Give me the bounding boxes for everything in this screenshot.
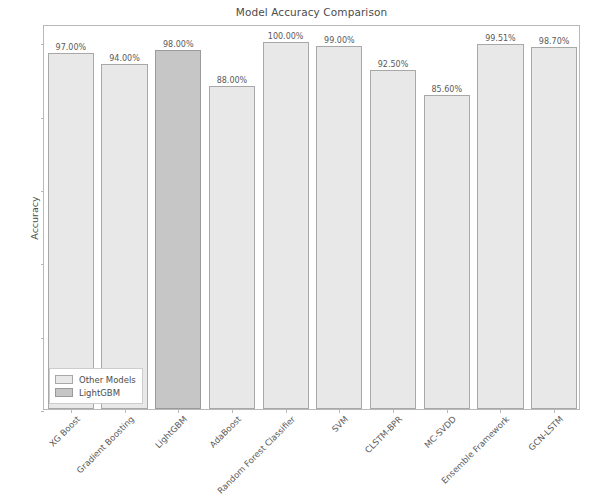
chart-legend: Other Models LightGBM xyxy=(49,368,143,404)
y-tick-mark xyxy=(41,118,45,119)
x-tick-mark xyxy=(232,409,233,413)
x-tick-mark xyxy=(393,409,394,413)
bar-value-label: 88.00% xyxy=(217,76,248,85)
bar-value-label: 99.51% xyxy=(485,34,516,43)
bar-lightgbm: 98.00% xyxy=(155,50,201,409)
bar-gradient-boosting: 94.00% xyxy=(101,64,147,409)
y-tick-mark xyxy=(41,411,45,412)
plot-area: Accuracy 0.00.20.40.60.81.0 XG BoostGrad… xyxy=(43,25,580,410)
chart-figure: Model Accuracy Comparison Accuracy 0.00.… xyxy=(0,0,597,500)
bar-value-label: 85.60% xyxy=(431,85,462,94)
bar-value-label: 92.50% xyxy=(378,60,409,69)
x-tick-mark xyxy=(125,409,126,413)
x-tick-mark xyxy=(447,409,448,413)
x-tick-mark xyxy=(71,409,72,413)
bar-value-label: 98.00% xyxy=(163,40,194,49)
x-tick-label-text: CLSTM-BPR xyxy=(363,414,404,455)
y-tick-mark xyxy=(41,191,45,192)
x-tick-label-text: AdaBoost xyxy=(207,414,243,450)
bar-xg-boost: 97.00% xyxy=(48,53,94,409)
bar-value-label: 98.70% xyxy=(539,37,570,46)
x-tick-label-text: LightGBM xyxy=(153,414,189,450)
x-tick-label-text: SVM xyxy=(330,414,350,434)
x-tick-label-text: XG Boost xyxy=(47,414,82,449)
legend-item-lightgbm: LightGBM xyxy=(55,386,136,399)
bar-value-label: 97.00% xyxy=(56,43,87,52)
bar-value-label: 99.00% xyxy=(324,36,355,45)
y-tick-mark xyxy=(41,338,45,339)
bar-random-forest-classifier: 100.00% xyxy=(263,42,309,409)
bar-adaboost: 88.00% xyxy=(209,86,255,409)
x-tick-mark xyxy=(500,409,501,413)
x-tick-mark xyxy=(286,409,287,413)
x-tick-label-text: GCN-LSTM xyxy=(527,414,566,453)
x-tick-mark xyxy=(554,409,555,413)
chart-title: Model Accuracy Comparison xyxy=(43,6,580,18)
bar-mc-svdd: 85.60% xyxy=(424,95,470,409)
bar-svm: 99.00% xyxy=(316,46,362,409)
x-tick-label-text: Gradient Boosting xyxy=(74,414,135,475)
x-tick-mark xyxy=(339,409,340,413)
legend-swatch-lightgbm xyxy=(55,388,73,397)
bar-value-label: 100.00% xyxy=(268,32,304,41)
x-tick-mark xyxy=(178,409,179,413)
y-tick-mark xyxy=(41,264,45,265)
bar-gcn-lstm: 98.70% xyxy=(531,47,577,409)
y-tick-mark xyxy=(41,44,45,45)
legend-label-other-models: Other Models xyxy=(79,375,136,385)
bar-ensemble-framework: 99.51% xyxy=(477,44,523,409)
bar-value-label: 94.00% xyxy=(109,54,140,63)
legend-swatch-other-models xyxy=(55,375,73,384)
legend-item-other-models: Other Models xyxy=(55,373,136,386)
bar-clstm-bpr: 92.50% xyxy=(370,70,416,409)
legend-label-lightgbm: LightGBM xyxy=(79,388,120,398)
y-axis-label: Accuracy xyxy=(29,196,40,239)
x-tick-label-text: MC-SVDD xyxy=(422,414,458,450)
